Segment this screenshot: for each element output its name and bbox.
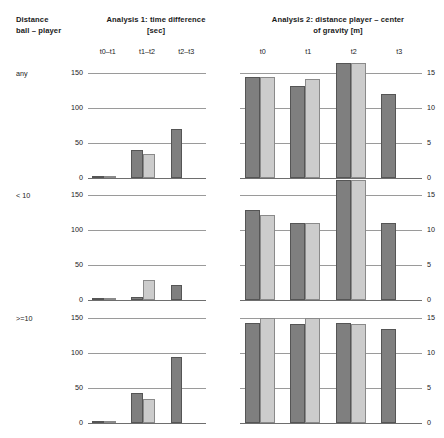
row-label-1: < 10 bbox=[16, 191, 30, 200]
analysis1-title-line2: [sec] bbox=[86, 26, 226, 37]
y-tick-label-0: 0 bbox=[427, 174, 444, 181]
gridline-150 bbox=[88, 195, 206, 196]
distance-column-title: Distance ball – player bbox=[16, 15, 86, 36]
row-label-2: >=10 bbox=[16, 314, 32, 323]
gridline-50 bbox=[88, 388, 206, 389]
axis-line bbox=[240, 423, 422, 424]
bar-analysis2-10-t1-light bbox=[305, 318, 320, 423]
bar-analysis2-10-t3-dark bbox=[381, 329, 396, 424]
gridline-50 bbox=[88, 143, 206, 144]
plot-area bbox=[240, 173, 422, 302]
bar-analysis2-any-t1-light bbox=[305, 79, 320, 178]
y-tick-label-150: 150 bbox=[57, 314, 83, 321]
analysis1-title: Analysis 1: time difference [sec] bbox=[86, 15, 226, 36]
panel-analysis1-row-0 bbox=[88, 51, 206, 180]
y-tick-label-0: 0 bbox=[57, 174, 83, 181]
y-tick-label-0: 0 bbox=[57, 296, 83, 303]
bar-analysis2-10-t2-light bbox=[351, 180, 366, 300]
gridline-15 bbox=[240, 73, 422, 74]
gridline-100 bbox=[88, 230, 206, 231]
panel-analysis2-row-1 bbox=[240, 173, 422, 302]
bar-analysis1-10-t1-t2-dark bbox=[131, 393, 143, 423]
bar-analysis2-any-t2-light bbox=[351, 63, 366, 179]
axis-line bbox=[88, 423, 206, 424]
bar-analysis1-10-t0-t1-dark bbox=[92, 421, 104, 423]
y-tick-label-0: 0 bbox=[427, 296, 444, 303]
y-tick-label-50: 50 bbox=[57, 139, 83, 146]
bar-analysis2-10-t0-dark bbox=[245, 323, 260, 423]
gridline-15 bbox=[240, 195, 422, 196]
y-tick-label-150: 150 bbox=[57, 191, 83, 198]
bar-analysis2-10-t1-light bbox=[305, 223, 320, 300]
y-tick-label-0: 0 bbox=[427, 419, 444, 426]
y-tick-label-15: 15 bbox=[427, 69, 444, 76]
bar-analysis2-10-t2-dark bbox=[336, 323, 351, 423]
bar-analysis2-10-t0-light bbox=[260, 318, 275, 423]
gridline-50 bbox=[88, 265, 206, 266]
y-tick-label-100: 100 bbox=[57, 104, 83, 111]
gridline-100 bbox=[88, 353, 206, 354]
analysis1-title-line1: Analysis 1: time difference bbox=[86, 15, 226, 26]
panel-analysis1-row-1 bbox=[88, 173, 206, 302]
y-tick-label-10: 10 bbox=[427, 349, 444, 356]
y-tick-label-100: 100 bbox=[57, 349, 83, 356]
bar-analysis2-10-t3-dark bbox=[381, 223, 396, 300]
y-tick-label-10: 10 bbox=[427, 104, 444, 111]
bar-analysis2-10-t1-dark bbox=[290, 223, 305, 300]
plot-area bbox=[88, 51, 206, 180]
y-tick-label-100: 100 bbox=[57, 226, 83, 233]
bar-analysis2-any-t3-dark bbox=[381, 94, 396, 178]
bar-analysis2-10-t2-light bbox=[351, 324, 366, 423]
bar-analysis2-any-t0-light bbox=[260, 77, 275, 179]
y-tick-label-5: 5 bbox=[427, 384, 444, 391]
bar-analysis2-any-t2-dark bbox=[336, 63, 351, 179]
bar-analysis2-any-t1-dark bbox=[290, 86, 305, 178]
gridline-100 bbox=[88, 108, 206, 109]
y-tick-label-5: 5 bbox=[427, 139, 444, 146]
row-label-0: any bbox=[16, 69, 28, 78]
panel-analysis2-row-2 bbox=[240, 296, 422, 425]
bar-analysis2-10-t0-light bbox=[260, 215, 275, 300]
panel-analysis2-row-0 bbox=[240, 51, 422, 180]
bar-analysis2-any-t0-dark bbox=[245, 77, 260, 179]
y-tick-label-150: 150 bbox=[57, 69, 83, 76]
analysis2-title-line1: Analysis 2: distance player – center bbox=[238, 15, 438, 26]
bar-analysis2-10-t0-dark bbox=[245, 210, 260, 300]
figure-root: Distance ball – player Analysis 1: time … bbox=[0, 0, 444, 438]
bar-analysis1-10-t2-t3-dark bbox=[171, 357, 183, 424]
y-tick-label-5: 5 bbox=[427, 261, 444, 268]
y-tick-label-15: 15 bbox=[427, 314, 444, 321]
plot-area bbox=[240, 51, 422, 180]
y-tick-label-50: 50 bbox=[57, 261, 83, 268]
bar-analysis1-10-t0-t1-light bbox=[104, 421, 116, 423]
distance-title-line1: Distance bbox=[16, 15, 86, 26]
plot-area bbox=[88, 296, 206, 425]
gridline-150 bbox=[88, 73, 206, 74]
y-tick-label-15: 15 bbox=[427, 191, 444, 198]
bar-analysis2-10-t2-dark bbox=[336, 180, 351, 300]
distance-title-line2: ball – player bbox=[16, 26, 86, 37]
y-tick-label-50: 50 bbox=[57, 384, 83, 391]
panel-analysis1-row-2 bbox=[88, 296, 206, 425]
plot-area bbox=[240, 296, 422, 425]
analysis2-title: Analysis 2: distance player – center of … bbox=[238, 15, 438, 36]
analysis2-title-line2: of gravity [m] bbox=[238, 26, 438, 37]
gridline-150 bbox=[88, 318, 206, 319]
plot-area bbox=[88, 173, 206, 302]
y-tick-label-10: 10 bbox=[427, 226, 444, 233]
bar-analysis1-any-t2-t3-dark bbox=[171, 129, 183, 178]
bar-analysis2-10-t1-dark bbox=[290, 324, 305, 423]
y-tick-label-0: 0 bbox=[57, 419, 83, 426]
bar-analysis1-10-t1-t2-light bbox=[143, 399, 155, 424]
